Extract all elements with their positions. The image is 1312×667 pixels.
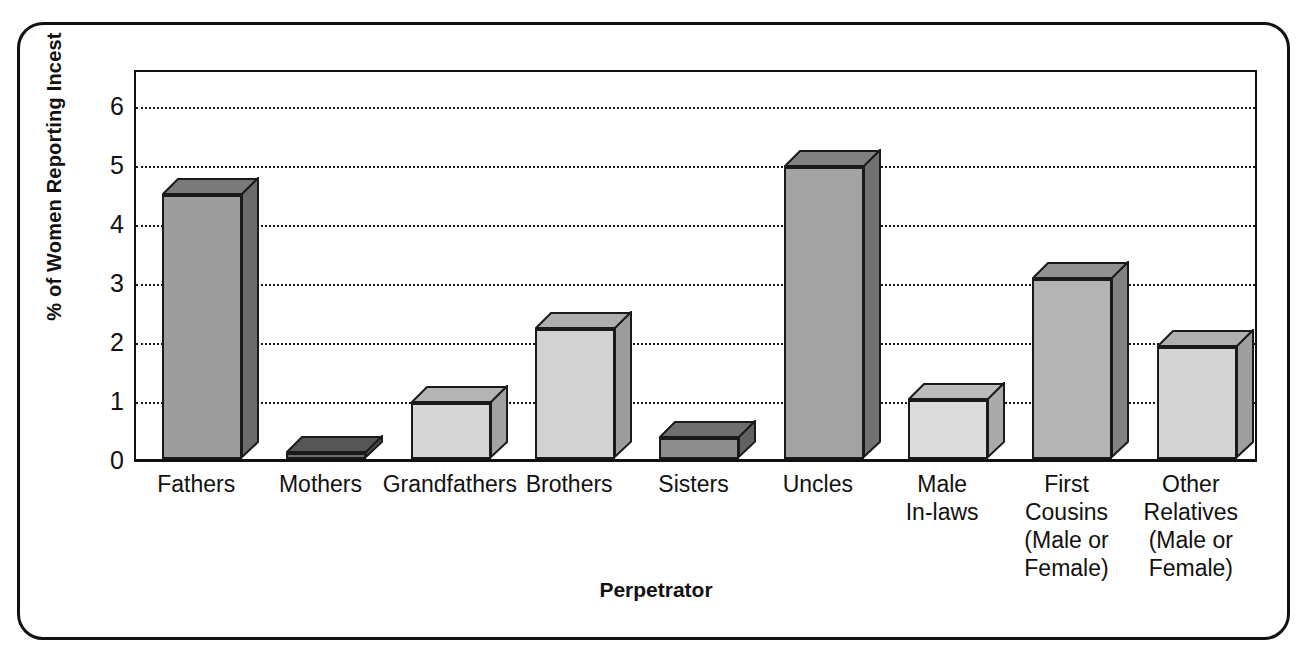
x-axis-tick-label: Uncles	[756, 470, 880, 498]
bar-front-face	[908, 400, 988, 459]
y-axis-title: % of Women Reporting Incest	[43, 27, 66, 327]
bar[interactable]	[411, 387, 507, 459]
x-axis-tick-label-line: (Male or	[1004, 526, 1128, 554]
bar[interactable]	[1157, 331, 1253, 459]
bar-top-outline	[535, 312, 631, 330]
bar-top-outline	[784, 150, 880, 168]
x-axis-tick-label-line: Uncles	[756, 470, 880, 498]
x-axis-tick-label-line: Sisters	[631, 470, 755, 498]
bar[interactable]	[784, 151, 880, 459]
x-axis-tick-labels: FathersMothersGrandfathersBrothersSister…	[134, 470, 1257, 580]
x-axis-tick-label-line: Fathers	[134, 470, 258, 498]
bar-front-face	[1157, 347, 1237, 459]
bar[interactable]	[659, 422, 755, 459]
x-axis-tick-label-line: (Male or	[1129, 526, 1253, 554]
x-axis-tick-label-line: First	[1004, 470, 1128, 498]
y-axis-tick-label: 4	[110, 212, 124, 237]
bar[interactable]	[286, 437, 382, 459]
y-axis-tick-label: 2	[110, 330, 124, 355]
bar[interactable]	[1032, 263, 1128, 459]
x-axis-tick-label-line: Brothers	[507, 470, 631, 498]
x-axis-tick-label-line: Male	[880, 470, 1004, 498]
bar-front-face	[535, 329, 615, 459]
x-axis-tick-label: OtherRelatives(Male orFemale)	[1129, 470, 1253, 582]
bar-top-outline	[162, 178, 258, 196]
bar-side-face	[863, 149, 881, 459]
bar-side-face	[614, 311, 632, 459]
bar-front-face	[286, 453, 366, 459]
x-axis-tick-label: MaleIn-laws	[880, 470, 1004, 526]
plot-area	[134, 70, 1257, 462]
bar-top-outline	[1157, 330, 1253, 348]
gridline	[136, 225, 1255, 227]
gridline	[136, 166, 1255, 168]
x-axis-tick-label-line: Relatives	[1129, 498, 1253, 526]
bar-top-outline	[1032, 262, 1128, 280]
y-axis-tick-label: 5	[110, 153, 124, 178]
y-axis-ticks: 0123456	[96, 70, 130, 462]
x-axis-tick-label-line: Grandfathers	[383, 470, 507, 498]
bar-top-outline	[908, 383, 1004, 401]
x-axis-tick-label: Brothers	[507, 470, 631, 498]
bar-front-face	[659, 438, 739, 459]
bar-front-face	[162, 195, 242, 459]
bar[interactable]	[162, 179, 258, 459]
x-axis-tick-label-line: In-laws	[880, 498, 1004, 526]
bar-top-outline	[286, 436, 382, 454]
bar-front-face	[784, 167, 864, 459]
x-axis-tick-label-line: Cousins	[1004, 498, 1128, 526]
chart-figure: 0123456 % of Women Reporting Incest Fath…	[0, 0, 1312, 667]
bar-side-face	[1111, 261, 1129, 459]
bar[interactable]	[535, 313, 631, 459]
x-axis-tick-label: FirstCousins(Male orFemale)	[1004, 470, 1128, 582]
bar-front-face	[1032, 279, 1112, 459]
x-axis-tick-label-line: Other	[1129, 470, 1253, 498]
bar[interactable]	[908, 384, 1004, 459]
bar-top-outline	[659, 421, 755, 439]
x-axis-tick-label: Mothers	[258, 470, 382, 498]
bar-side-face	[1236, 329, 1254, 459]
y-axis-tick-label: 1	[110, 389, 124, 414]
plot-inner	[136, 72, 1255, 459]
y-axis-tick-label: 6	[110, 94, 124, 119]
y-axis-tick-label: 3	[110, 271, 124, 296]
bar-top-outline	[411, 386, 507, 404]
x-axis-tick-label: Grandfathers	[383, 470, 507, 498]
x-axis-tick-label: Sisters	[631, 470, 755, 498]
y-axis-tick-label: 0	[110, 448, 124, 473]
bar-front-face	[411, 403, 491, 459]
x-axis-title: Perpetrator	[0, 578, 1312, 602]
x-axis-tick-label-line: Mothers	[258, 470, 382, 498]
gridline	[136, 107, 1255, 109]
x-axis-tick-label: Fathers	[134, 470, 258, 498]
bar-side-face	[241, 177, 259, 459]
